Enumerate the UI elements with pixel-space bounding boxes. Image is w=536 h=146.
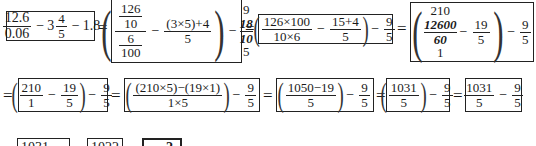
- equals-sign: =: [111, 87, 121, 104]
- expression-original: 12.6 0.06 − 3 45 − 1.8: [6, 11, 95, 41]
- cancelled-fraction: 210 12600 60 1: [424, 4, 457, 60]
- expression-step-3: ( 210 12600 60 1 − 195 ) − 95: [410, 2, 534, 62]
- equals-sign: =: [263, 87, 273, 104]
- final-answer: 2: [142, 138, 182, 146]
- mixed-number: 3 45: [47, 12, 69, 40]
- fraction-12.6-over-0.06: 12.6 0.06: [3, 11, 32, 41]
- equals-sign: =: [397, 20, 407, 37]
- expression-step-8: 10315 − 95: [465, 78, 522, 112]
- equals-sign: =: [453, 87, 463, 104]
- complex-fraction: 12610 6100: [115, 2, 147, 60]
- expression-step-2: ( 126×10010×6 − 15+45 ) − 95: [258, 14, 393, 44]
- expression-step-1: ( 12610 6100 − (3×5)+45 ) − 9 18 10 5: [111, 0, 242, 63]
- expression-step-5: ( (210×5)−(19×1)1×5 ) − 95: [124, 78, 260, 112]
- expression-step-7: ( 10315 ) − 95: [386, 78, 450, 112]
- expression-step-10: 1022: [87, 138, 123, 146]
- expression-step-6: ( 1050−195 ) − 95: [276, 78, 374, 112]
- expression-step-4: ( 2101 − 195 ) − 95: [18, 78, 108, 112]
- expression-step-9: 1031 − 9: [17, 138, 70, 146]
